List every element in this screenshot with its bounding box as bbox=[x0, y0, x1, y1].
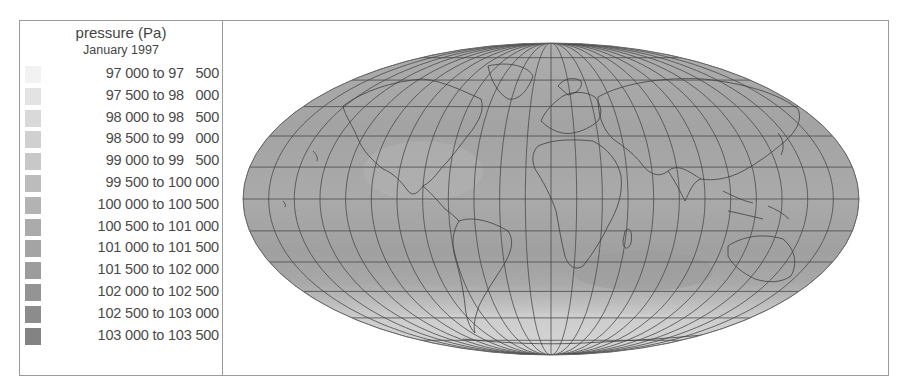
legend-item: 98 000 to 98 500 bbox=[23, 108, 219, 130]
legend-label: 102 000 to 102 500 bbox=[98, 283, 219, 299]
legend-label: 103 000 to 103 500 bbox=[98, 327, 219, 343]
legend-swatch bbox=[25, 262, 41, 279]
legend-label: 101 000 to 101 500 bbox=[98, 239, 219, 255]
legend-item: 103 000 to 103 500 bbox=[23, 326, 219, 348]
legend-item: 99 000 to 99 500 bbox=[23, 151, 219, 173]
legend-label: 102 500 to 103 000 bbox=[98, 305, 219, 321]
legend-label: 101 500 to 102 000 bbox=[98, 261, 219, 277]
legend-swatch bbox=[25, 284, 41, 301]
legend-swatch bbox=[25, 306, 41, 323]
legend-item: 100 000 to 100 500 bbox=[23, 195, 219, 217]
legend-label: 100 000 to 100 500 bbox=[98, 196, 219, 212]
legend-label: 100 500 to 101 000 bbox=[98, 218, 219, 234]
legend-item: 102 000 to 102 500 bbox=[23, 282, 219, 304]
legend-label: 97 500 to 98 000 bbox=[106, 87, 219, 103]
legend-swatch bbox=[25, 219, 41, 236]
legend-item: 99 500 to 100 000 bbox=[23, 173, 219, 195]
legend-item: 102 500 to 103 000 bbox=[23, 304, 219, 326]
legend-item: 100 500 to 101 000 bbox=[23, 217, 219, 239]
legend-swatch bbox=[25, 197, 41, 214]
legend-panel: pressure (Pa) January 1997 97 000 to 97 … bbox=[19, 20, 223, 376]
legend-item: 98 500 to 99 000 bbox=[23, 129, 219, 151]
legend-swatch bbox=[25, 153, 41, 170]
legend-item: 97 500 to 98 000 bbox=[23, 86, 219, 108]
legend-label: 98 000 to 98 500 bbox=[106, 109, 219, 125]
legend-swatch bbox=[25, 328, 41, 345]
legend-items: 97 000 to 97 50097 500 to 98 00098 000 t… bbox=[23, 64, 219, 347]
legend-swatch bbox=[25, 131, 41, 148]
mollweide-map bbox=[223, 21, 888, 375]
legend-label: 99 500 to 100 000 bbox=[105, 174, 219, 190]
legend-subtitle: January 1997 bbox=[19, 43, 223, 57]
legend-swatch bbox=[25, 88, 41, 105]
legend-item: 97 000 to 97 500 bbox=[23, 64, 219, 86]
legend-swatch bbox=[25, 66, 41, 83]
legend-swatch bbox=[25, 110, 41, 127]
legend-swatch bbox=[25, 175, 41, 192]
world-map bbox=[223, 21, 888, 375]
legend-label: 97 000 to 97 500 bbox=[106, 65, 219, 81]
legend-item: 101 500 to 102 000 bbox=[23, 260, 219, 282]
legend-label: 98 500 to 99 000 bbox=[106, 130, 219, 146]
legend-swatch bbox=[25, 240, 41, 257]
legend-item: 101 000 to 101 500 bbox=[23, 238, 219, 260]
legend-label: 99 000 to 99 500 bbox=[106, 152, 219, 168]
legend-title: pressure (Pa) bbox=[19, 24, 223, 41]
